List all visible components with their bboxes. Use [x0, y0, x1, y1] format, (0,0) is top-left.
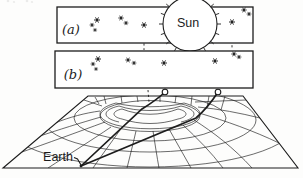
figure-canvas: (a) Sun (b) Earth	[0, 0, 303, 178]
panel-b-label: (b)	[64, 67, 82, 82]
open-circle-marker-icon	[215, 89, 221, 95]
light-rays	[80, 92, 218, 167]
grid-funnel	[100, 103, 200, 129]
panel-a-label: (a)	[62, 22, 80, 37]
earth-annotation: Earth	[43, 150, 81, 165]
gravitational-lensing-figure: (a) Sun (b) Earth	[0, 0, 303, 178]
open-circle-marker-icon	[162, 89, 168, 95]
panel-a: (a) Sun	[57, 0, 253, 55]
cropped-text-artifact	[7, 0, 33, 3]
panel-a-box	[57, 7, 253, 43]
panel-b-box	[55, 51, 253, 88]
earth-label: Earth	[43, 150, 73, 164]
panel-b: (b)	[55, 51, 253, 88]
sun-label: Sun	[177, 16, 199, 30]
sheet-markers	[162, 89, 221, 95]
earth-point	[80, 165, 83, 168]
